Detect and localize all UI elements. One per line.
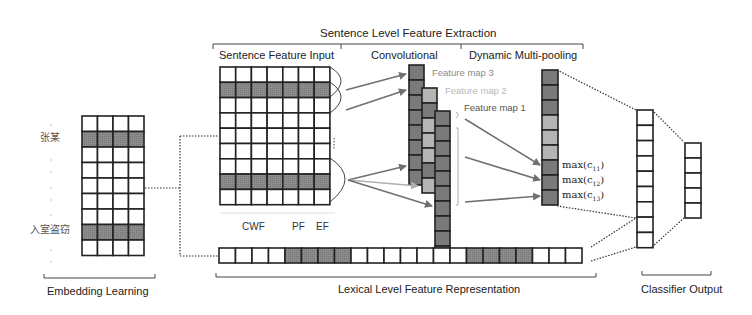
grid-cell bbox=[98, 240, 114, 256]
grid-cell bbox=[82, 209, 98, 225]
grid-cell bbox=[267, 174, 283, 189]
grid-cell bbox=[220, 189, 236, 204]
grid-cell bbox=[299, 159, 315, 174]
word-label-1: 张某 bbox=[40, 133, 60, 143]
grid-cell bbox=[113, 163, 129, 179]
lexical-cell bbox=[384, 248, 401, 263]
hidden-cell bbox=[637, 125, 653, 140]
lexical-cell bbox=[483, 248, 500, 263]
label-sentence-feature-input: Sentence Feature Input bbox=[219, 50, 334, 61]
grid-cell bbox=[267, 98, 283, 113]
feature-map-1-cell bbox=[435, 186, 450, 201]
grid-cell bbox=[283, 128, 299, 143]
pooling-cell bbox=[542, 190, 558, 205]
lexical-cell bbox=[566, 248, 583, 263]
convolution-feature-maps bbox=[409, 65, 450, 261]
feature-map-brackets bbox=[456, 112, 458, 205]
grid-cell bbox=[236, 98, 252, 113]
hidden-cell bbox=[637, 141, 653, 156]
grid-cell bbox=[129, 132, 145, 148]
grid-cell bbox=[314, 113, 330, 128]
label-pf: PF bbox=[292, 222, 305, 232]
grid-cell bbox=[82, 194, 98, 210]
lexical-cell bbox=[252, 248, 269, 263]
label-lexical-level: Lexical Level Feature Representation bbox=[338, 284, 520, 295]
grid-cell bbox=[314, 144, 330, 159]
feature-map-1-cell bbox=[435, 111, 450, 126]
grid-cell bbox=[251, 113, 267, 128]
grid-cell bbox=[129, 209, 145, 225]
grid-cell bbox=[251, 159, 267, 174]
grid-cell bbox=[236, 174, 252, 189]
grid-cell bbox=[314, 98, 330, 113]
grid-cell bbox=[129, 147, 145, 163]
grid-cell bbox=[314, 67, 330, 82]
grid-cell bbox=[314, 82, 330, 97]
grid-cell bbox=[129, 225, 145, 241]
grid-cell bbox=[236, 113, 252, 128]
label-classifier-output: Classifier Output bbox=[641, 284, 722, 295]
lexical-cell bbox=[285, 248, 302, 263]
grid-cell bbox=[299, 98, 315, 113]
grid-cell bbox=[283, 189, 299, 204]
grid-cell bbox=[267, 82, 283, 97]
grid-cell bbox=[113, 147, 129, 163]
grid-cell bbox=[113, 209, 129, 225]
lexical-cell bbox=[219, 248, 236, 263]
lexical-cell bbox=[335, 248, 352, 263]
word-dots bbox=[50, 124, 52, 263]
grid-cell bbox=[98, 178, 114, 194]
grid-cell bbox=[82, 225, 98, 241]
pool-label-1: max(c11) bbox=[562, 160, 604, 172]
pooling-cell bbox=[542, 115, 558, 130]
grid-cell bbox=[283, 174, 299, 189]
feature-map-1-cell bbox=[435, 126, 450, 141]
sentence-feature-matrix bbox=[220, 67, 330, 205]
lexical-cell bbox=[450, 248, 467, 263]
pooling-cell bbox=[542, 160, 558, 175]
grid-cell bbox=[113, 116, 129, 132]
grid-cell bbox=[283, 159, 299, 174]
hidden-cell bbox=[637, 217, 653, 232]
grid-cell bbox=[251, 82, 267, 97]
grid-cell bbox=[299, 174, 315, 189]
grid-cell bbox=[299, 67, 315, 82]
pooling-cell bbox=[542, 100, 558, 115]
label-feature-map-3: Feature map 3 bbox=[432, 68, 494, 78]
feature-map-1-cell bbox=[435, 141, 450, 156]
output-cell bbox=[685, 203, 701, 218]
hidden-cell bbox=[637, 110, 653, 125]
grid-cell bbox=[283, 98, 299, 113]
feature-map-1-cell bbox=[435, 216, 450, 231]
grid-cell bbox=[113, 225, 129, 241]
label-feature-map-1: Feature map 1 bbox=[464, 103, 526, 113]
grid-cell bbox=[113, 240, 129, 256]
pool-label-3: max(c13) bbox=[562, 190, 604, 202]
feature-map-1-cell bbox=[435, 201, 450, 216]
grid-cell bbox=[267, 113, 283, 128]
grid-cell bbox=[98, 163, 114, 179]
feature-map-1-cell bbox=[435, 171, 450, 186]
label-ef: EF bbox=[316, 222, 329, 232]
lexical-cell bbox=[401, 248, 418, 263]
embedding-matrix bbox=[82, 116, 144, 256]
grid-cell bbox=[236, 82, 252, 97]
grid-cell bbox=[82, 132, 98, 148]
grid-cell bbox=[98, 116, 114, 132]
grid-cell bbox=[314, 174, 330, 189]
grid-cell bbox=[129, 240, 145, 256]
grid-cell bbox=[129, 116, 145, 132]
pooling-cell bbox=[542, 145, 558, 160]
grid-cell bbox=[299, 128, 315, 143]
grid-cell bbox=[236, 144, 252, 159]
grid-cell bbox=[220, 113, 236, 128]
grid-cell bbox=[98, 225, 114, 241]
grid-cell bbox=[129, 194, 145, 210]
grid-cell bbox=[220, 159, 236, 174]
output-cell bbox=[685, 143, 701, 158]
pooling-cell bbox=[542, 175, 558, 190]
output-vector bbox=[685, 143, 701, 218]
grid-cell bbox=[129, 178, 145, 194]
grid-cell bbox=[299, 144, 315, 159]
grid-cell bbox=[220, 128, 236, 143]
